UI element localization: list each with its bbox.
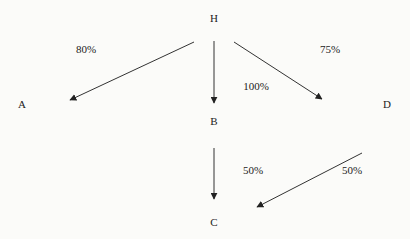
edge-d-c-arrow [257, 153, 362, 207]
node-d: D [383, 98, 391, 110]
edge-label-b-c: 50% [243, 164, 263, 176]
diagram-arrows [0, 0, 410, 239]
node-b: B [210, 115, 217, 127]
ownership-diagram: H A B D C 80% 100% 75% 50% 50% [0, 0, 410, 239]
edge-label-h-a: 80% [76, 43, 96, 55]
edge-label-h-b: 100% [243, 80, 269, 92]
node-c: C [210, 216, 217, 228]
edge-label-h-d: 75% [320, 43, 340, 55]
edge-label-d-c: 50% [342, 164, 362, 176]
node-h: H [210, 12, 218, 24]
node-a: A [18, 98, 26, 110]
